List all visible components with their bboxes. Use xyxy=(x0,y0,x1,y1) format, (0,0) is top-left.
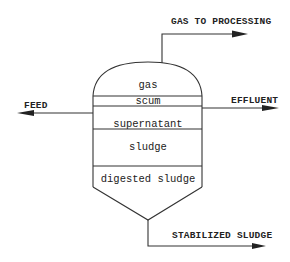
tank-cone xyxy=(93,187,202,220)
sludge-arrow-icon xyxy=(252,243,266,249)
layer-digested-sludge-label: digested sludge xyxy=(101,173,196,185)
digester-diagram: gas scum supernatant sludge digested slu… xyxy=(0,0,290,262)
effluent-label: EFFLUENT xyxy=(231,95,278,106)
feed-label: FEED xyxy=(24,100,48,111)
stabilized-sludge-label: STABILIZED SLUDGE xyxy=(172,230,272,241)
layer-scum-label: scum xyxy=(135,95,160,107)
gas-pipe-line xyxy=(162,34,238,63)
gas-outlet-pipe xyxy=(162,31,248,64)
gas-arrow-icon xyxy=(232,31,248,38)
gas-to-processing-label: GAS TO PROCESSING xyxy=(171,16,271,27)
layer-sludge-label: sludge xyxy=(129,141,167,153)
layer-gas-label: gas xyxy=(139,79,158,91)
layer-supernatant-label: supernatant xyxy=(113,118,182,130)
